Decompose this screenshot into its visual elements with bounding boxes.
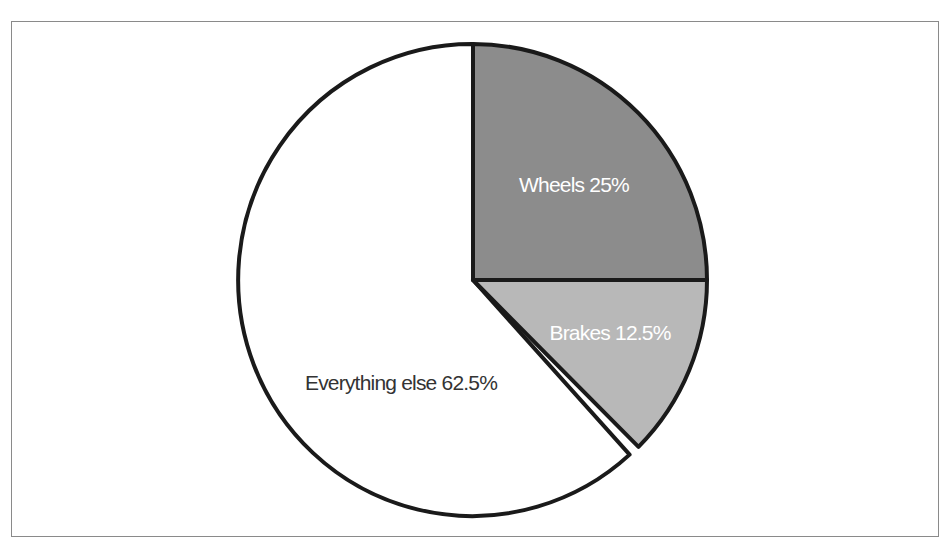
label-everything-else: Everything else 62.5% xyxy=(305,371,497,394)
pie-chart: Wheels 25% Brakes 12.5% Everything else … xyxy=(0,0,951,546)
slice-wheels xyxy=(473,44,707,280)
label-brakes: Brakes 12.5% xyxy=(549,321,670,344)
label-wheels: Wheels 25% xyxy=(519,173,629,196)
